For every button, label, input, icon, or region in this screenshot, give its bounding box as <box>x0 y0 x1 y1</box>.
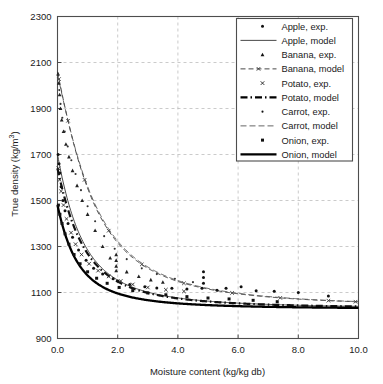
legend-label: Banana, model <box>282 64 345 74</box>
x-axis-title: Moisture content (kg/kg db) <box>57 366 358 377</box>
y-axis-title-text: True density (kg/m <box>9 138 20 216</box>
svg-text:6.0: 6.0 <box>231 344 244 355</box>
y-axis-title-sup: 3 <box>8 135 15 139</box>
svg-text:2100: 2100 <box>30 57 51 68</box>
svg-text:10.0: 10.0 <box>349 344 368 355</box>
svg-text:1700: 1700 <box>30 149 51 160</box>
svg-text:1300: 1300 <box>30 241 51 252</box>
chart-figure: 90011001300150017001900210023000.02.04.0… <box>0 0 383 384</box>
y-axis-title-suffix: ) <box>9 131 20 134</box>
chart-legend: Apple, exp.Apple, modelBanana, exp.Banan… <box>237 19 353 162</box>
legend-label: Onion, exp. <box>282 136 330 146</box>
svg-text:8.0: 8.0 <box>292 344 305 355</box>
svg-text:1100: 1100 <box>31 287 51 298</box>
series-points <box>57 153 330 297</box>
legend-label: Carrot, exp. <box>282 107 331 117</box>
series-line <box>58 155 359 307</box>
svg-text:900: 900 <box>36 333 52 344</box>
legend-label: Potato, model <box>282 93 339 103</box>
svg-text:1900: 1900 <box>30 103 51 114</box>
legend-label: Apple, model <box>282 36 336 46</box>
svg-text:2300: 2300 <box>30 11 51 22</box>
svg-text:1500: 1500 <box>30 195 51 206</box>
y-axis-title: True density (kg/m3) <box>8 114 20 234</box>
svg-text:2.0: 2.0 <box>111 344 124 355</box>
legend-label: Potato, exp. <box>282 79 332 89</box>
plot-canvas: 90011001300150017001900210023000.02.04.0… <box>0 0 383 384</box>
legend-label: Onion, model <box>282 150 337 160</box>
legend-label: Carrot, model <box>282 121 338 131</box>
svg-text:0.0: 0.0 <box>51 344 64 355</box>
svg-text:4.0: 4.0 <box>171 344 184 355</box>
legend-label: Apple, exp. <box>282 22 329 32</box>
legend-label: Banana, exp. <box>282 50 337 60</box>
